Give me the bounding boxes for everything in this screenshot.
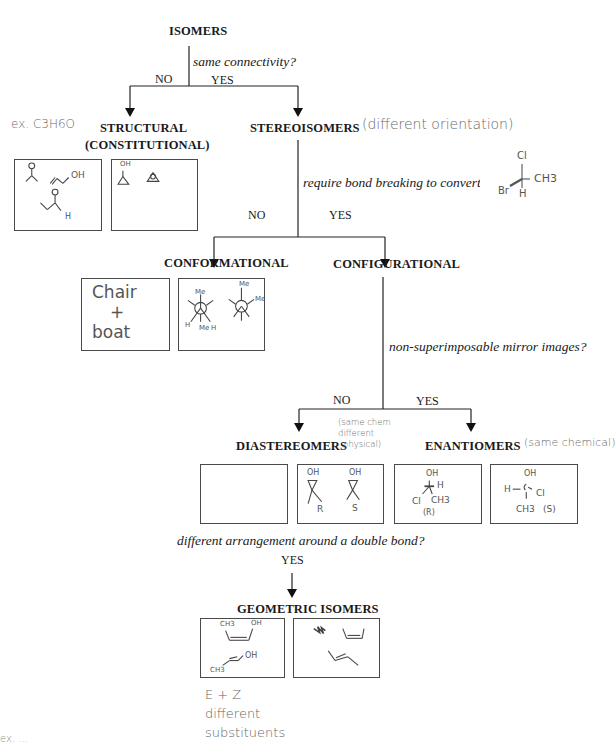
question-mirror-images: non-superimposable mirror images? — [389, 339, 587, 355]
ch3-label: CH3 — [516, 504, 535, 514]
enantiomers-example-box-1: OH H Cl CH3 (R) — [394, 464, 482, 524]
example-formula: ex. C3H6O — [11, 117, 75, 131]
q1-no-label: NO — [155, 72, 172, 87]
q3-no-label: NO — [333, 393, 350, 408]
br-label: Br — [498, 185, 509, 196]
enantiomers-title: ENANTIOMERS — [425, 439, 521, 454]
structural-title: STRUCTURAL — [100, 121, 187, 136]
stereoisomers-title: STEREOISOMERS — [250, 121, 360, 136]
diastereomers-example-box-2: OH OH R S — [297, 464, 384, 524]
oh-label: OH — [251, 619, 262, 627]
conformational-example-box-1: Chair + boat — [81, 278, 170, 351]
ch3-label: CH3 — [534, 172, 557, 185]
q2-no-label: NO — [248, 208, 265, 223]
configurational-title: CONFIGURATIONAL — [333, 257, 460, 272]
r-config-label: (R) — [423, 508, 435, 517]
geometric-isomers-title: GEOMETRIC ISOMERS — [237, 602, 379, 617]
arrow-down-icon — [293, 108, 303, 117]
structural-subtitle: (CONSTITUTIONAL) — [85, 138, 210, 153]
note-line: different — [338, 428, 391, 439]
structural-example-note: ex. C3H6O — [11, 117, 75, 131]
h-label: H — [519, 188, 527, 199]
bottom-left-note: ex. ... — [0, 733, 28, 743]
arrow-down-icon — [125, 108, 135, 117]
h-label: H — [504, 484, 511, 494]
structural-example-box-1: OH H — [14, 159, 102, 231]
geometric-example-box-2 — [293, 618, 380, 678]
oh-label: OH — [71, 170, 85, 180]
cl-label: Cl — [517, 150, 527, 161]
me-label: Me — [199, 324, 209, 332]
chiral-center-drawing — [480, 150, 580, 210]
oh-label: OH — [245, 651, 257, 660]
q1-yes-label: YES — [211, 73, 234, 88]
cyclic-molecules-sketch — [112, 160, 197, 230]
me-label: Me — [239, 280, 249, 288]
oh-label: OH — [524, 469, 536, 478]
cl-label: Cl — [412, 496, 421, 506]
enantiomers-example-box-2: OH H Cl CH3 (S) — [490, 464, 578, 524]
oh-label: OH — [120, 160, 131, 168]
note-line: E + Z — [205, 685, 285, 704]
chiral-center-sketch: Cl CH3 Br H — [480, 150, 580, 210]
question-bond-breaking: require bond breaking to convert? — [303, 175, 487, 191]
r-label: R — [317, 504, 323, 514]
alkene-sketch — [294, 619, 379, 677]
ch3-label: CH3 — [210, 666, 225, 674]
chair-boat-note: Chair + boat — [92, 282, 137, 342]
enantiomers-note: (same chemical) — [524, 436, 615, 449]
boat-text: boat — [92, 322, 137, 342]
diastereomers-example-box-1 — [200, 464, 288, 524]
note-line: physical) — [338, 439, 391, 450]
diastereomers-note: (same chem different physical) — [338, 417, 391, 450]
stereoisomers-note: (different orientation) — [362, 116, 513, 132]
note-line: substituents — [205, 723, 285, 742]
q2-yes-label: YES — [329, 208, 352, 223]
conformational-example-box-2: Me Me Me Me H H — [178, 278, 265, 351]
oh-label: OH — [426, 469, 438, 478]
chair-text: Chair — [92, 282, 137, 302]
h-label: H — [437, 480, 444, 490]
ch3-label: CH3 — [220, 620, 235, 628]
newman-projections-sketch — [179, 279, 264, 350]
ch3-label: CH3 — [431, 495, 450, 505]
plus-text: + — [92, 302, 137, 322]
geometric-note: E + Z different substituents — [205, 685, 285, 742]
cl-label: Cl — [536, 488, 545, 498]
isomers-title: ISOMERS — [169, 24, 227, 39]
diastereomers-title: DIASTEREOMERS — [236, 439, 347, 454]
q3-yes-label: YES — [416, 394, 439, 409]
oh-label: OH — [349, 468, 361, 477]
question-double-bond: different arrangement around a double bo… — [177, 533, 425, 549]
q4-yes-label: YES — [281, 553, 304, 568]
me-label: Me — [255, 295, 265, 303]
note-line: different — [205, 704, 285, 723]
question-same-connectivity: same connectivity? — [193, 54, 296, 70]
h-label: H — [185, 321, 190, 329]
conformational-title: CONFORMATIONAL — [164, 256, 289, 271]
s-config-label: (S) — [543, 504, 556, 514]
arrow-down-icon — [287, 589, 297, 598]
note-line: (same chem — [338, 417, 391, 428]
h-label: H — [65, 212, 71, 221]
arrow-down-icon — [294, 423, 304, 432]
geometric-example-box-1: CH3 OH CH3 OH — [200, 618, 285, 678]
arrow-down-icon — [466, 423, 476, 432]
structural-example-box-2: OH — [111, 159, 198, 231]
structural-molecules-sketch — [15, 160, 101, 230]
s-label: S — [352, 503, 358, 513]
h-label: H — [211, 324, 216, 332]
me-label: Me — [195, 288, 205, 296]
oh-label: OH — [307, 468, 319, 477]
